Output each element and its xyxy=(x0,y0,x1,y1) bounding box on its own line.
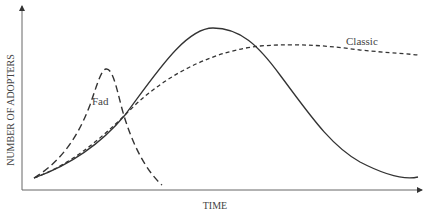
classic-curve xyxy=(34,45,418,178)
fad-curve xyxy=(34,69,162,185)
x-axis-title: TIME xyxy=(203,200,227,211)
classic-label: Classic xyxy=(346,35,378,47)
adoption-curves-diagram: Fad Classic TIME NUMBER OF ADOPTERS xyxy=(0,0,436,218)
y-axis-title: NUMBER OF ADOPTERS xyxy=(5,54,16,166)
fad-label: Fad xyxy=(92,95,109,107)
